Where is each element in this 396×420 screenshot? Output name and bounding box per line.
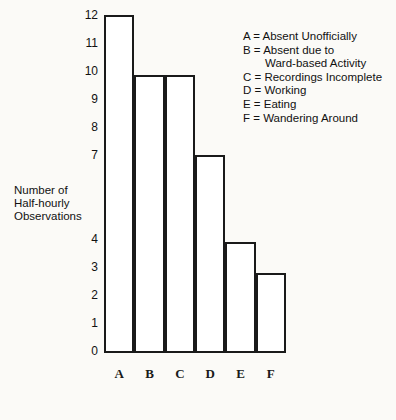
y-axis-tick-label: 7 <box>72 149 98 161</box>
x-axis-label-d: D <box>195 366 225 382</box>
y-axis-tick-label: 3 <box>72 261 98 273</box>
legend: A = Absent UnofficiallyB = Absent due to… <box>243 30 382 125</box>
x-axis-label-f: F <box>256 366 286 382</box>
bar-d <box>195 155 225 351</box>
legend-item-f: F = Wandering Around <box>243 112 382 126</box>
y-axis-tick-label: 2 <box>72 289 98 301</box>
bar-f <box>256 273 286 351</box>
y-axis-tick-label: 11 <box>72 37 98 49</box>
bar-a <box>104 15 134 351</box>
legend-item-e: E = Eating <box>243 98 382 112</box>
x-axis-label-b: B <box>135 366 165 382</box>
y-axis-title-line-2: Half-hourly <box>14 197 100 210</box>
y-axis-tick-label: 8 <box>72 121 98 133</box>
legend-item-b-continuation: Ward-based Activity <box>243 57 382 71</box>
y-axis-title: Number of Half-hourly Observations <box>14 184 100 223</box>
y-axis-tick-label: 9 <box>72 93 98 105</box>
legend-item-a: A = Absent Unofficially <box>243 30 382 44</box>
bar-e <box>225 242 255 351</box>
legend-item-d: D = Working <box>243 84 382 98</box>
legend-item-c: C = Recordings Incomplete <box>243 71 382 85</box>
y-axis-tick-label: 4 <box>72 233 98 245</box>
y-axis-tick-label: 1 <box>72 317 98 329</box>
y-axis-tick-label: 10 <box>72 65 98 77</box>
x-axis-label-c: C <box>165 366 195 382</box>
bar-b <box>134 75 164 351</box>
y-axis-tick-label: 12 <box>72 9 98 21</box>
x-axis-label-a: A <box>104 366 134 382</box>
y-axis-title-line-1: Number of <box>14 184 100 197</box>
legend-item-b: B = Absent due to <box>243 44 382 58</box>
y-axis-tick-label: 0 <box>72 345 98 357</box>
x-axis-label-e: E <box>226 366 256 382</box>
bar-c <box>165 75 195 351</box>
y-axis-title-line-3: Observations <box>14 210 100 223</box>
chart-figure: 01234789101112 ABCDEF Number of Half-hou… <box>0 0 396 420</box>
